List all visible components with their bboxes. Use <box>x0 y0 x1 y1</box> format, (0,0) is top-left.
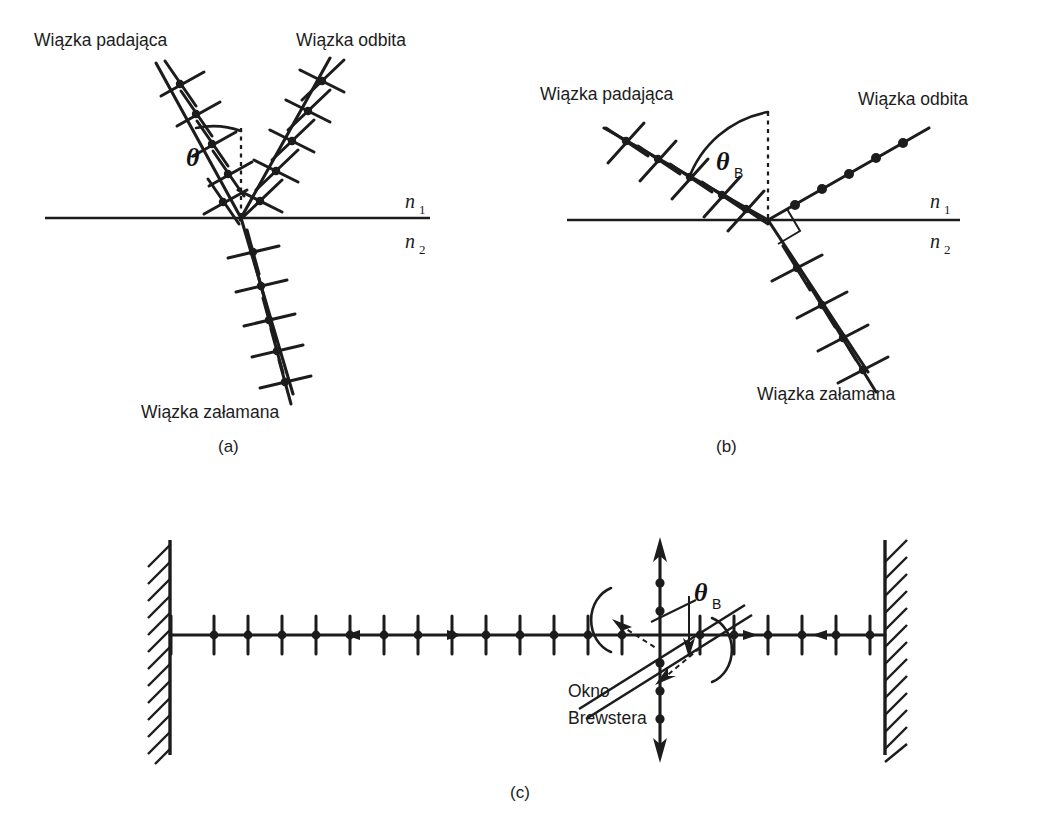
brewster-window-label-line1: Okno <box>568 681 610 701</box>
panel-caption-a: (a) <box>218 437 239 456</box>
n1-subscript-b: 1 <box>944 202 951 217</box>
n1-subscript-a: 1 <box>419 202 426 217</box>
brewster-window-label-line2: Brewstera <box>568 708 647 728</box>
n1-symbol-a: n <box>405 190 415 212</box>
angle-label-a: θ <box>186 143 200 172</box>
n2-symbol-a: n <box>405 230 415 252</box>
angle-theta-subscript-b: B <box>734 165 743 181</box>
n2-subscript-b: 2 <box>944 242 951 257</box>
angle-theta-subscript-c: B <box>712 596 721 612</box>
reflected-beam-label-a: Wiązka odbita <box>296 30 406 50</box>
refracted-beam-label-b: Wiązka załamana <box>757 384 895 404</box>
reflected-beam-label-b: Wiązka odbita <box>858 89 968 109</box>
angle-theta-b: θ <box>716 147 730 176</box>
panel-caption-b: (b) <box>716 437 737 456</box>
angle-theta-c: θ <box>694 578 708 607</box>
panel-caption-c: (c) <box>510 783 530 802</box>
physics-figure: θ Wiązka padająca Wiązka odbita Wiązka z… <box>0 0 1044 840</box>
figure-root: θ Wiązka padająca Wiązka odbita Wiązka z… <box>0 0 1044 840</box>
n1-symbol-b: n <box>930 190 940 212</box>
refracted-beam-label-a: Wiązka załamana <box>141 402 279 422</box>
n2-symbol-b: n <box>930 230 940 252</box>
n2-subscript-a: 2 <box>419 242 426 257</box>
incident-beam-label-b: Wiązka padająca <box>540 84 674 104</box>
incident-beam-label-a: Wiązka padająca <box>34 30 168 50</box>
